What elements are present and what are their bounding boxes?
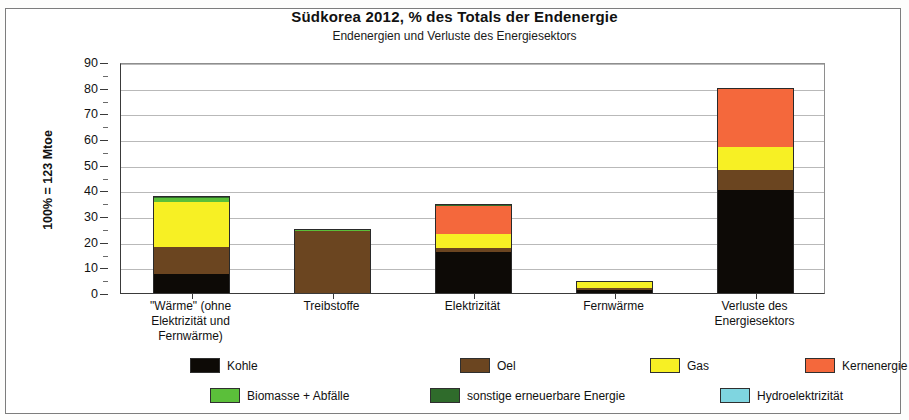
y-tick-label: 20 bbox=[84, 236, 98, 250]
bar-stack[interactable] bbox=[435, 62, 512, 293]
y-tick-minor bbox=[103, 230, 108, 231]
legend-item[interactable]: Biomasse + Abfälle bbox=[210, 388, 349, 403]
bar-stack[interactable] bbox=[153, 62, 230, 293]
bar-segment[interactable] bbox=[576, 281, 653, 287]
legend-label: Gas bbox=[687, 359, 709, 373]
legend-swatch-icon bbox=[805, 358, 835, 373]
bar-segment[interactable] bbox=[153, 196, 230, 198]
y-tick-label: 30 bbox=[84, 210, 98, 224]
y-tick-mark bbox=[100, 140, 108, 141]
bar-segment[interactable] bbox=[153, 202, 230, 247]
legend-swatch-icon bbox=[460, 358, 490, 373]
bar-stack[interactable] bbox=[576, 62, 653, 293]
x-category-line: Elektrizität und bbox=[106, 314, 276, 329]
x-category-line: Energiesektors bbox=[670, 314, 840, 329]
bar-segment[interactable] bbox=[717, 147, 794, 170]
y-tick-mark bbox=[100, 243, 108, 244]
bar-segment[interactable] bbox=[435, 234, 512, 248]
legend-label: sonstige erneuerbare Energie bbox=[467, 389, 625, 403]
y-tick-label: 50 bbox=[84, 159, 98, 173]
x-category-label: Verluste desEnergiesektors bbox=[670, 299, 840, 329]
bar-segment[interactable] bbox=[294, 231, 371, 293]
bar-segment[interactable] bbox=[435, 252, 512, 293]
y-tick-mark bbox=[100, 114, 108, 115]
bar-segment[interactable] bbox=[294, 229, 371, 230]
bar-stack[interactable] bbox=[294, 62, 371, 293]
bar-segment[interactable] bbox=[153, 247, 230, 274]
y-axis-label: 100% = 123 Mtoe bbox=[41, 80, 55, 280]
bar-segment[interactable] bbox=[576, 288, 653, 290]
bar-segment[interactable] bbox=[717, 190, 794, 293]
legend-label: Kernenergie bbox=[842, 359, 907, 373]
bar-segment[interactable] bbox=[717, 88, 794, 147]
y-tick-mark bbox=[100, 217, 108, 218]
y-tick-label: 80 bbox=[84, 82, 98, 96]
x-category-line: Fernwärme) bbox=[106, 329, 276, 344]
legend-item[interactable]: Kohle bbox=[190, 358, 258, 373]
legend-item[interactable]: Kernenergie bbox=[805, 358, 907, 373]
chart-subtitle: Endenergien und Verluste des Energiesekt… bbox=[0, 29, 909, 43]
y-tick-minor bbox=[103, 76, 108, 77]
y-tick-minor bbox=[103, 281, 108, 282]
legend-label: Oel bbox=[497, 359, 516, 373]
y-tick-mark bbox=[100, 294, 108, 295]
y-tick-label: 70 bbox=[84, 107, 98, 121]
legend-item[interactable]: Gas bbox=[650, 358, 709, 373]
y-tick-minor bbox=[103, 102, 108, 103]
legend-item[interactable]: Hydroelektrizität bbox=[720, 388, 843, 403]
bar-segment[interactable] bbox=[435, 206, 512, 234]
bar-segment[interactable] bbox=[435, 204, 512, 205]
y-axis: 100% = 123 Mtoe 0102030405060708090 bbox=[0, 63, 120, 294]
legend-item[interactable]: Oel bbox=[460, 358, 516, 373]
y-tick-mark bbox=[100, 191, 108, 192]
chart-title: Südkorea 2012, % des Totals der Endenerg… bbox=[0, 8, 909, 25]
legend-swatch-icon bbox=[650, 358, 680, 373]
y-tick-minor bbox=[103, 153, 108, 154]
legend-label: Kohle bbox=[227, 359, 258, 373]
y-tick-mark bbox=[100, 268, 108, 269]
bar-segment[interactable] bbox=[153, 198, 230, 202]
legend-row-secondary: Biomasse + Abfällesonstige erneuerbare E… bbox=[0, 388, 909, 410]
legend-swatch-icon bbox=[210, 388, 240, 403]
y-tick-label: 10 bbox=[84, 261, 98, 275]
legend-swatch-icon bbox=[720, 388, 750, 403]
legend-swatch-icon bbox=[190, 358, 220, 373]
bar-segment[interactable] bbox=[717, 170, 794, 191]
y-tick-label: 60 bbox=[84, 133, 98, 147]
y-tick-label: 0 bbox=[91, 287, 98, 301]
bar-segment[interactable] bbox=[435, 248, 512, 252]
plot-area bbox=[120, 63, 825, 294]
y-tick-label: 40 bbox=[84, 184, 98, 198]
legend-swatch-icon bbox=[430, 388, 460, 403]
y-tick-label: 90 bbox=[84, 56, 98, 70]
y-tick-mark bbox=[100, 89, 108, 90]
y-tick-minor bbox=[103, 204, 108, 205]
chart-page: Südkorea 2012, % des Totals der Endenerg… bbox=[0, 0, 909, 420]
y-tick-mark bbox=[100, 63, 108, 64]
y-tick-mark bbox=[100, 166, 108, 167]
x-category-line: Verluste des bbox=[670, 299, 840, 314]
legend-label: Hydroelektrizität bbox=[757, 389, 843, 403]
y-tick-minor bbox=[103, 256, 108, 257]
bar-stack[interactable] bbox=[717, 62, 794, 293]
bar-segment[interactable] bbox=[153, 274, 230, 293]
y-tick-minor bbox=[103, 179, 108, 180]
legend-row-primary: KohleOelGasKernenergie bbox=[0, 358, 909, 380]
legend-item[interactable]: sonstige erneuerbare Energie bbox=[430, 388, 625, 403]
y-tick-minor bbox=[103, 127, 108, 128]
legend-label: Biomasse + Abfälle bbox=[247, 389, 349, 403]
